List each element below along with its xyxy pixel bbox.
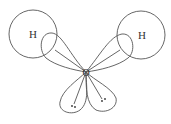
lone-pair-lobe-left: [60, 72, 87, 113]
water-orbital-diagram: H H O: [0, 0, 171, 124]
lone-pair-lobe-right: [86, 72, 116, 111]
oxygen-label: O: [82, 67, 89, 78]
lone-pair-left-dots: [71, 105, 76, 108]
hydrogen-right-label: H: [138, 29, 146, 41]
hydrogen-left-label: H: [29, 28, 37, 40]
